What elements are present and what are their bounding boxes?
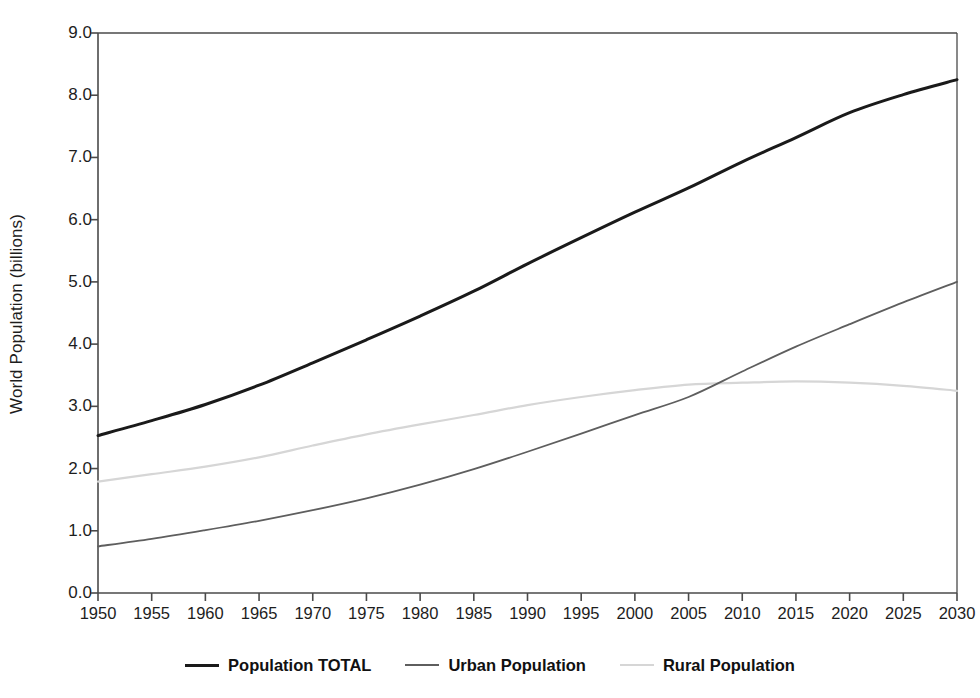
legend-item[interactable]: Urban Population	[405, 656, 586, 675]
x-axis-tick-label: 1965	[241, 604, 278, 623]
x-axis-tick-label: 2020	[831, 604, 868, 623]
x-axis-tick-label: 1980	[402, 604, 439, 623]
x-axis-tick-label: 2030	[939, 604, 976, 623]
population-line-chart: World Population (billions) 0.01.02.03.0…	[0, 0, 980, 698]
chart-legend: Population TOTALUrban PopulationRural Po…	[0, 650, 980, 680]
legend-line-swatch	[620, 664, 654, 666]
x-axis-tick-label: 2000	[617, 604, 654, 623]
x-axis-tick-label: 1990	[509, 604, 546, 623]
plot-area	[0, 0, 980, 698]
x-axis-tick-label: 1975	[348, 604, 385, 623]
legend-line-swatch	[185, 664, 219, 667]
x-axis-tick-label: 2015	[778, 604, 815, 623]
x-axis-tick-label: 1960	[187, 604, 224, 623]
x-axis-tick-label: 1985	[455, 604, 492, 623]
legend-item[interactable]: Population TOTAL	[185, 656, 371, 675]
y-axis-ticks	[91, 33, 98, 593]
legend-label: Urban Population	[448, 656, 586, 675]
axis-lines	[98, 33, 957, 593]
legend-label: Rural Population	[663, 656, 795, 675]
legend-label: Population TOTAL	[228, 656, 371, 675]
series-line-urban-population	[98, 282, 957, 546]
x-axis-tick-label: 2025	[885, 604, 922, 623]
x-axis-tick-label: 1970	[294, 604, 331, 623]
data-series-lines	[98, 80, 957, 547]
x-axis-tick-label: 2005	[670, 604, 707, 623]
x-axis-tick-labels: 1950195519601965197019751980198519901995…	[98, 604, 958, 630]
x-axis-tick-label: 1995	[563, 604, 600, 623]
x-axis-tick-label: 1955	[133, 604, 170, 623]
x-axis-ticks	[98, 593, 957, 601]
x-axis-tick-label: 1950	[80, 604, 117, 623]
legend-line-swatch	[405, 664, 439, 666]
x-axis-tick-label: 2010	[724, 604, 761, 623]
legend-item[interactable]: Rural Population	[620, 656, 795, 675]
